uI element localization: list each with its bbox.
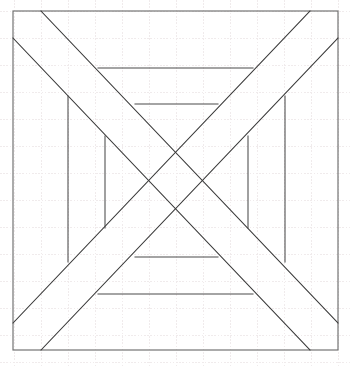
geometric-figure-svg: [0, 0, 351, 366]
figure-canvas: [0, 0, 351, 366]
